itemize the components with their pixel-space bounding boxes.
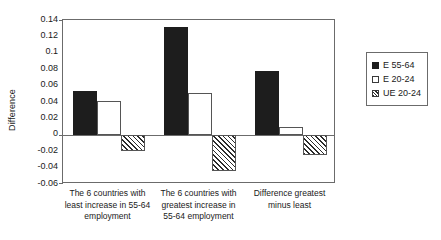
- legend-label: E 20-24: [383, 75, 415, 84]
- legend-swatch-icon: [372, 62, 379, 69]
- bar-e-55-64-cat2: [255, 71, 279, 135]
- y-tick-label: 0.14: [18, 15, 58, 24]
- bar-e-20-24-cat2: [279, 127, 303, 134]
- plot-area: [62, 19, 335, 183]
- x-category-label-line: 55-64 employment: [149, 211, 248, 223]
- y-axis-tick-labels: 0.140.120.10.080.060.040.020-0.02-0.04-0…: [18, 19, 58, 183]
- legend-swatch-icon: [372, 76, 379, 83]
- bar-chart: Difference 0.140.120.10.080.060.040.020-…: [0, 0, 441, 240]
- x-axis-category-labels: The 6 countries withleast increase in 55…: [62, 188, 335, 234]
- legend-item[interactable]: E 20-24: [372, 72, 421, 86]
- y-tick-label: 0.1: [18, 47, 58, 56]
- y-tick-mark: [59, 183, 63, 184]
- legend-item[interactable]: E 55-64: [372, 58, 421, 72]
- y-tick-label: -0.02: [18, 146, 58, 155]
- y-tick-label: 0.06: [18, 80, 58, 89]
- x-category-label: The 6 countries withgreatest increase in…: [149, 188, 248, 223]
- y-tick-label: -0.06: [18, 179, 58, 188]
- x-category-label: Difference greatestminus least: [240, 188, 339, 211]
- y-tick-label: 0: [18, 129, 58, 138]
- y-tick-label: 0.12: [18, 31, 58, 40]
- legend-label: UE 20-24: [383, 89, 421, 98]
- y-tick-mark: [59, 20, 63, 21]
- x-category-label-line: greatest increase in: [149, 200, 248, 212]
- x-category-label-line: Difference greatest: [240, 188, 339, 200]
- x-category-label-line: least increase in 55-64: [58, 200, 157, 212]
- bar-e-20-24-cat0: [97, 101, 121, 135]
- legend-item[interactable]: UE 20-24: [372, 86, 421, 100]
- bars-layer: [63, 20, 334, 182]
- bar-e-55-64-cat1: [164, 27, 188, 134]
- legend-swatch-icon: [372, 90, 379, 97]
- legend-label: E 55-64: [383, 61, 415, 70]
- y-tick-label: 0.08: [18, 64, 58, 73]
- y-axis-title: Difference: [7, 65, 17, 155]
- chart-legend: E 55-64E 20-24UE 20-24: [366, 52, 428, 106]
- y-tick-label: 0.02: [18, 113, 58, 122]
- x-category-label-line: minus least: [240, 200, 339, 212]
- zero-baseline: [63, 135, 334, 136]
- x-category-label-line: employment: [58, 211, 157, 223]
- bar-ue-20-24-cat1: [212, 135, 236, 171]
- x-category-label-line: The 6 countries with: [149, 188, 248, 200]
- y-tick-label: 0.04: [18, 97, 58, 106]
- x-category-label-line: The 6 countries with: [58, 188, 157, 200]
- bar-ue-20-24-cat0: [121, 135, 145, 151]
- bar-ue-20-24-cat2: [303, 135, 327, 156]
- x-category-label: The 6 countries withleast increase in 55…: [58, 188, 157, 223]
- bar-e-20-24-cat1: [188, 93, 212, 135]
- bar-e-55-64-cat0: [73, 91, 97, 134]
- y-tick-label: -0.04: [18, 162, 58, 171]
